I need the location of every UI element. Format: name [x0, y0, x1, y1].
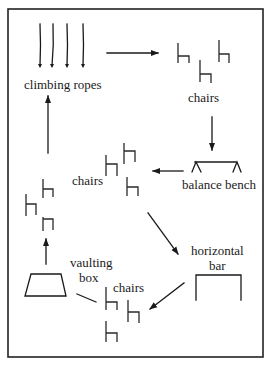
label-chairs-middle: chairs — [72, 173, 103, 188]
label-chairs-top: chairs — [188, 90, 219, 105]
connector-line — [77, 294, 96, 302]
label-balance-bench: balance bench — [182, 177, 256, 192]
horizontal-bar-icon — [196, 275, 241, 300]
label-bar: bar — [209, 258, 226, 273]
chairs-left-icon — [26, 179, 53, 231]
label-vaulting: vaulting — [70, 255, 113, 270]
balance-bench-icon — [192, 162, 241, 172]
arrow-bar-to-chairs — [150, 283, 184, 309]
label-box: box — [79, 270, 99, 285]
label-chairs-bottom: chairs — [113, 280, 144, 295]
circuit-diagram: climbing ropes chairs balance bench chai… — [0, 0, 268, 367]
chairs-middle-icon — [106, 143, 138, 196]
label-climbing-ropes: climbing ropes — [24, 77, 102, 92]
arrow-chairs-to-bar — [148, 213, 178, 254]
vaulting-box-icon — [25, 274, 66, 296]
label-horizontal: horizontal — [191, 243, 244, 258]
chairs-top-icon — [178, 40, 229, 83]
climbing-ropes-icon — [38, 24, 85, 68]
chairs-bottom-icon — [106, 287, 139, 342]
